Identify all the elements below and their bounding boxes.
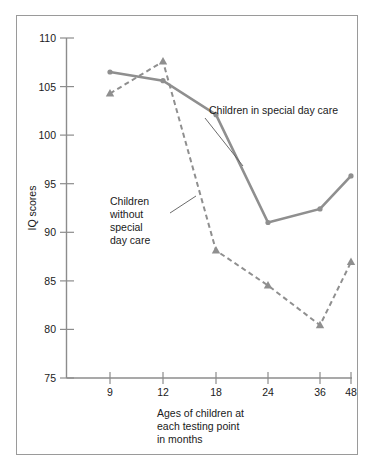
x-axis-title: Ages of children at each testing point i… <box>157 407 244 445</box>
marker-solid-9 <box>107 69 112 74</box>
marker-tri-24 <box>264 281 272 289</box>
marker-tri-12 <box>159 57 167 65</box>
x-axis: 9 12 18 24 36 48 Ages of children at eac… <box>67 372 357 445</box>
y-axis: 110 105 100 95 90 85 80 75 IQ scores <box>26 32 74 384</box>
y-tick-label-80: 80 <box>44 323 56 335</box>
x-axis-title-line-2: each testing point <box>157 420 239 432</box>
marker-tri-48 <box>347 258 355 266</box>
y-axis-title: IQ scores <box>26 186 38 231</box>
x-tick-label-12: 12 <box>157 386 169 398</box>
y-tick-label-100: 100 <box>38 129 56 141</box>
y-tick-label-90: 90 <box>44 226 56 238</box>
annotation-without-label-line-2: without <box>109 208 143 220</box>
x-axis-title-line-3: in months <box>157 433 203 445</box>
annotation-without-label-line-3: special <box>110 221 143 233</box>
marker-solid-12 <box>160 78 165 83</box>
marker-solid-24 <box>265 220 270 225</box>
series-children-without-special-day-care <box>106 57 355 328</box>
y-tick-label-95: 95 <box>44 178 56 190</box>
x-tick-label-36: 36 <box>314 386 326 398</box>
annotation-special-label: Children in special day care <box>209 104 338 116</box>
marker-tri-18 <box>212 246 220 254</box>
x-tick-label-9: 9 <box>107 386 113 398</box>
x-tick-label-18: 18 <box>210 386 222 398</box>
annotation-without-special-day-care: Children without special day care <box>109 195 196 246</box>
annotation-leader-special <box>205 118 243 166</box>
annotation-without-label-line-1: Children <box>110 195 149 207</box>
annotation-leader-without <box>170 196 196 213</box>
marker-tri-36 <box>316 321 324 329</box>
marker-solid-48 <box>348 173 353 178</box>
series-dashed-line <box>110 62 351 326</box>
y-tick-label-85: 85 <box>44 275 56 287</box>
marker-solid-36 <box>317 206 322 211</box>
line-chart: 110 105 100 95 90 85 80 75 IQ scores 9 1… <box>0 0 374 467</box>
y-tick-label-105: 105 <box>38 81 56 93</box>
x-tick-label-24: 24 <box>262 386 274 398</box>
y-tick-label-75: 75 <box>44 372 56 384</box>
x-axis-title-line-1: Ages of children at <box>157 407 244 419</box>
y-tick-label-110: 110 <box>39 32 56 44</box>
chart-figure: 110 105 100 95 90 85 80 75 IQ scores 9 1… <box>0 0 374 467</box>
x-tick-label-48: 48 <box>345 386 357 398</box>
annotation-without-label-line-4: day care <box>110 234 150 246</box>
